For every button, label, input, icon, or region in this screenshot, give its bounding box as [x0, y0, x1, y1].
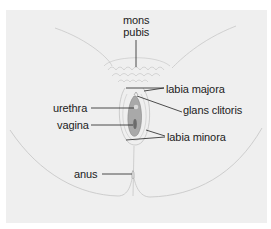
- label-mons-pubis: mons pubis: [123, 14, 150, 38]
- vestibule: [128, 96, 142, 136]
- label-urethra: urethra: [53, 102, 87, 114]
- urethra-opening: [134, 105, 139, 110]
- vagina-opening: [133, 119, 137, 129]
- label-mons-pubis-line1: mons: [123, 14, 150, 26]
- label-glans-clitoris: glans clitoris: [183, 104, 242, 116]
- label-vagina: vagina: [57, 119, 89, 131]
- anus-mark: [132, 171, 134, 179]
- label-labia-minora: labia minora: [167, 131, 226, 143]
- mons-pubis-hair: [104, 58, 170, 82]
- clitoris-glans: [134, 92, 138, 95]
- leader-labia-majora-2: [144, 88, 164, 91]
- label-anus: anus: [74, 168, 97, 180]
- leader-labia-minora-1: [146, 130, 165, 136]
- label-labia-majora: labia majora: [166, 83, 225, 95]
- leader-glans-clitoris: [137, 96, 182, 112]
- label-mons-pubis-line2: pubis: [123, 26, 150, 38]
- leader-labia-minora-2: [126, 137, 165, 140]
